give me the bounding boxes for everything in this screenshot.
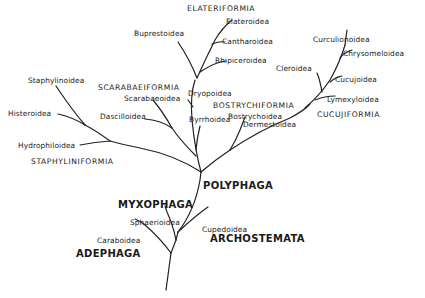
taxon-caraboidea: Caraboidea bbox=[97, 237, 140, 244]
taxon-histeroidea: Histeroidea bbox=[8, 110, 51, 117]
infraorder-elateriformia: ELATERIFORMIA bbox=[187, 5, 255, 13]
taxon-hydrophiloidea: Hydrophiloidea bbox=[18, 142, 75, 149]
branch-elateriformia bbox=[197, 20, 232, 78]
branch-scarabaeoidea bbox=[153, 100, 172, 128]
taxon-chrysomeloidea: Chrysomeloidea bbox=[343, 50, 404, 57]
infraorder-scarabaeiformia: SCARABAEIFORMIA bbox=[98, 84, 180, 92]
branch-dryopoidea bbox=[188, 100, 193, 107]
suborder-myxophaga: MYXOPHAGA bbox=[118, 200, 193, 210]
taxon-buprestoidea: Buprestoidea bbox=[134, 30, 184, 37]
taxon-cleroidea: Cleroidea bbox=[276, 65, 312, 72]
branch-byrrhoidea bbox=[196, 126, 200, 150]
branch-scarabaeiformia bbox=[172, 128, 196, 156]
taxon-lymexyloidea: Lymexyloidea bbox=[327, 96, 379, 103]
branch-staphyliniformia bbox=[110, 141, 201, 172]
branch-bostrych-cucuj bbox=[201, 150, 230, 172]
branch-non-adephaga bbox=[171, 240, 176, 253]
suborder-polyphaga: POLYPHAGA bbox=[203, 181, 273, 191]
infraorder-bostrychiformia: BOSTRYCHIFORMIA bbox=[213, 102, 294, 110]
branch-cleroidea bbox=[317, 73, 322, 92]
taxon-cupedoidea: Cupedoidea bbox=[202, 226, 247, 233]
taxon-scarabaeoidea: Scarabaeoidea bbox=[124, 95, 180, 102]
taxon-cucujoidea: Cucujoidea bbox=[335, 76, 377, 83]
taxon-elateroidea: Elateroidea bbox=[226, 18, 269, 25]
taxon-cantharoidea: Cantharoidea bbox=[222, 38, 273, 45]
suborder-adephaga: ADEPHAGA bbox=[76, 249, 141, 259]
branch-buprestoidea bbox=[178, 42, 197, 78]
taxon-curculionoidea: Curculionoidea bbox=[313, 36, 370, 43]
branch-staphylinoidea bbox=[56, 86, 85, 125]
taxon-dascilloidea: Dascilloidea bbox=[100, 113, 146, 120]
taxon-rhipiceroidea: Rhipiceroidea bbox=[215, 57, 267, 64]
taxon-byrrhoidea: Byrrhoidea bbox=[189, 116, 230, 123]
taxon-dermestoidea: Dermestoidea bbox=[243, 121, 296, 128]
branch-hist-staph bbox=[85, 125, 110, 141]
taxon-sphaerioidea: Sphaerioidea bbox=[130, 219, 180, 226]
infraorder-staphyliniformia: STAPHYLINIFORMIA bbox=[31, 158, 114, 166]
branch-hydrophiloidea bbox=[80, 141, 110, 145]
taxon-staphylinoidea: Staphylinoidea bbox=[28, 77, 84, 84]
taxon-dryopoidea: Dryopoidea bbox=[188, 90, 232, 97]
infraorder-cucujiformia: CUCUJIFORMIA bbox=[317, 111, 380, 119]
root-branch bbox=[166, 253, 171, 290]
branch-archo-poly bbox=[176, 232, 178, 240]
suborder-archostemata: ARCHOSTEMATA bbox=[210, 234, 305, 244]
